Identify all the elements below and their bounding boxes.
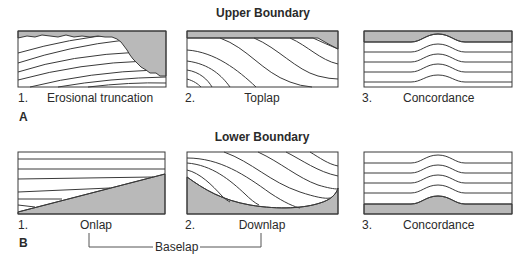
- diagram-onlap: [18, 152, 165, 214]
- upper-item-1-label: Erosional truncation: [47, 91, 153, 105]
- diagram-downlap: [187, 152, 338, 214]
- lower-item-2-label: Downlap: [239, 218, 286, 232]
- lower-item-2-number: 2.: [185, 218, 195, 232]
- lower-item-3-number: 3.: [362, 218, 372, 232]
- diagram-concordance-lower: [364, 152, 512, 214]
- lower-item-3-label: Concordance: [403, 218, 474, 232]
- upper-item-2-number: 2.: [185, 91, 195, 105]
- lower-item-1-number: 1.: [18, 218, 28, 232]
- upper-item-3-label: Concordance: [403, 91, 474, 105]
- diagram-toplap: [187, 31, 338, 87]
- lower-item-1-label: Onlap: [80, 218, 112, 232]
- upper-item-3-number: 3.: [362, 91, 372, 105]
- upper-item-2-label: Toplap: [244, 91, 279, 105]
- panel-letter-b: B: [19, 236, 28, 250]
- diagram-concordance-upper: [364, 31, 512, 87]
- diagram-erosional-truncation: [18, 31, 166, 87]
- baselap-label: Baselap: [153, 240, 200, 254]
- panel-letter-a: A: [19, 110, 28, 124]
- upper-item-1-number: 1.: [18, 91, 28, 105]
